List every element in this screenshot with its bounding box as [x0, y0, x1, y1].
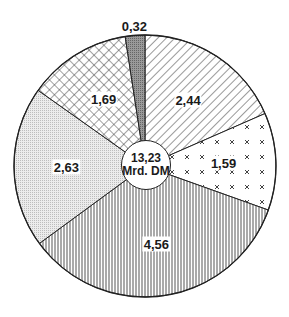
slice-label: 2,63: [53, 159, 80, 174]
total-center-label: 13,23 Mrd. DM: [121, 140, 171, 190]
slice-label: 2,44: [174, 93, 201, 108]
slice-label: 0,32: [121, 19, 148, 34]
slice-label: 1,59: [210, 156, 237, 171]
slice-label: 4,56: [143, 236, 170, 251]
total-unit: Mrd. DM: [122, 165, 169, 178]
slice-label: 1,69: [90, 92, 117, 107]
